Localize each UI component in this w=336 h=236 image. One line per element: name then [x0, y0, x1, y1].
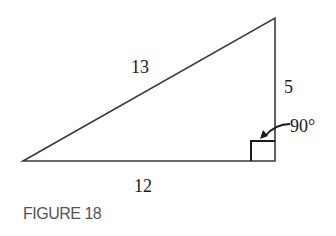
triangle-diagram	[0, 0, 336, 236]
triangle-outline	[23, 18, 275, 161]
figure-caption: FIGURE 18	[23, 206, 101, 222]
vertical-leg-label: 5	[284, 78, 293, 96]
horizontal-leg-label: 12	[134, 177, 152, 195]
angle-arrow	[265, 124, 290, 136]
angle-label: 90°	[290, 117, 315, 135]
right-angle-marker	[251, 141, 275, 161]
hypotenuse-label: 13	[131, 58, 149, 76]
